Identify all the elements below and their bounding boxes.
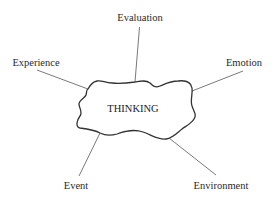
- center-label-thinking: THINKING: [107, 103, 159, 114]
- spoke-event: [79, 133, 100, 176]
- node-label-emotion: Emotion: [226, 57, 263, 68]
- node-label-evaluation: Evaluation: [117, 12, 163, 23]
- thinking-diagram: THINKING Evaluation Experience Emotion E…: [0, 0, 276, 197]
- node-label-event: Event: [64, 180, 89, 191]
- spoke-experience: [37, 70, 88, 89]
- spoke-evaluation: [135, 27, 140, 82]
- node-label-environment: Environment: [194, 180, 249, 191]
- spoke-emotion: [192, 71, 243, 91]
- spoke-environment: [169, 138, 216, 175]
- node-label-experience: Experience: [12, 57, 60, 68]
